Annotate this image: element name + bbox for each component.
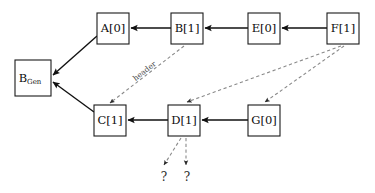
node-d[interactable]: D[1]: [168, 105, 200, 136]
terminals-group: ??: [161, 170, 190, 184]
nodes-group: BGenA[0]B[1]E[0]F[1]C[1]D[1]G[0]: [15, 13, 359, 136]
terminal-q1: ?: [161, 170, 167, 184]
edge-f-to-g: [265, 46, 344, 102]
node-f[interactable]: F[1]: [327, 13, 359, 44]
node-label-a: A[0]: [100, 21, 126, 35]
node-label-e: E[0]: [252, 21, 277, 35]
node-b[interactable]: B[1]: [171, 13, 203, 44]
diagram-canvas: BGenA[0]B[1]E[0]F[1]C[1]D[1]G[0] header …: [0, 0, 375, 193]
edge-label-header-label: header: [131, 59, 158, 83]
terminal-q2: ?: [184, 170, 190, 184]
node-g[interactable]: G[0]: [248, 105, 280, 136]
node-label-f: F[1]: [331, 21, 355, 35]
node-label-d: D[1]: [171, 113, 197, 127]
node-label-b: B[1]: [175, 21, 200, 35]
node-e[interactable]: E[0]: [248, 13, 280, 44]
edge-d-to-q1: [164, 138, 181, 165]
node-c[interactable]: C[1]: [94, 105, 126, 136]
edge-labels-group: header: [131, 59, 158, 83]
node-bgen[interactable]: BGen: [15, 60, 51, 96]
graph-svg: BGenA[0]B[1]E[0]F[1]C[1]D[1]G[0] header …: [0, 0, 375, 193]
edge-f-to-d: [187, 46, 341, 102]
node-a[interactable]: A[0]: [97, 13, 129, 44]
edge-c-to-bgen: [53, 82, 94, 112]
edge-a-to-bgen: [53, 36, 97, 75]
node-label-c: C[1]: [97, 113, 122, 127]
node-label-g: G[0]: [251, 113, 276, 127]
